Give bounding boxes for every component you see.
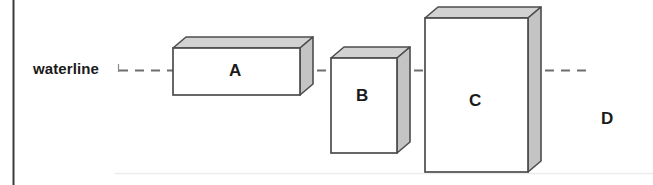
box-a-top-face bbox=[173, 37, 313, 48]
box-d-label: D bbox=[601, 110, 613, 127]
box-a bbox=[173, 37, 313, 95]
box-c-top-face bbox=[425, 7, 541, 18]
box-b-label: B bbox=[356, 87, 368, 104]
diagram-svg bbox=[0, 0, 653, 185]
box-c bbox=[425, 7, 541, 172]
diagram-canvas: waterline A B C D bbox=[0, 0, 653, 185]
box-a-label: A bbox=[229, 62, 241, 79]
box-b-side-face bbox=[397, 47, 410, 153]
waterline-label: waterline bbox=[33, 61, 99, 76]
box-b-front-face bbox=[331, 58, 397, 153]
box-b bbox=[331, 47, 410, 153]
box-c-label: C bbox=[469, 92, 481, 109]
box-a-side-face bbox=[300, 37, 313, 95]
box-c-side-face bbox=[528, 7, 541, 172]
